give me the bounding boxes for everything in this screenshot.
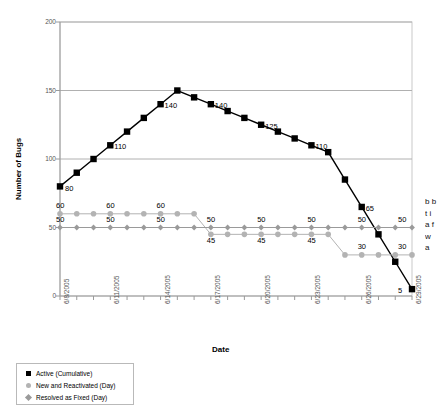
data-point-label: 60 bbox=[157, 201, 165, 210]
data-point-label: 65 bbox=[366, 204, 374, 213]
data-point-label: 125 bbox=[265, 122, 278, 131]
data-point-label: 45 bbox=[257, 236, 265, 245]
data-point-label: 140 bbox=[215, 101, 228, 110]
data-point-label: 110 bbox=[114, 142, 126, 151]
diamond-marker-icon bbox=[22, 395, 34, 400]
legend-item-resolved-fixed: Resolved as Fixed (Day) bbox=[22, 392, 129, 403]
data-point-label: 50 bbox=[157, 215, 165, 224]
data-point-label: 50 bbox=[257, 215, 265, 224]
data-point-label: 50 bbox=[56, 215, 64, 224]
y-tick-label: 100 bbox=[34, 155, 56, 162]
data-point-label: 30 bbox=[398, 242, 406, 251]
data-point-label: 50 bbox=[398, 215, 406, 224]
data-point-label: 45 bbox=[307, 236, 315, 245]
x-axis-title: Date bbox=[212, 345, 229, 354]
data-point-label: 50 bbox=[106, 215, 114, 224]
x-tick-label: 6/29/2005 bbox=[415, 275, 422, 304]
chart-legend: Active (Cumulative) New and Reactivated … bbox=[16, 363, 134, 405]
x-tick-label: 6/17/2005 bbox=[214, 275, 221, 304]
square-marker-icon bbox=[22, 371, 34, 376]
data-point-label: 60 bbox=[56, 201, 64, 210]
y-axis-title: Number of Bugs bbox=[14, 138, 23, 200]
data-point-label: 30 bbox=[358, 242, 366, 251]
cropped-side-text: b b t i a f w a bbox=[425, 196, 437, 254]
x-tick-label: 6/11/2005 bbox=[113, 276, 120, 304]
data-point-label: 50 bbox=[207, 215, 215, 224]
legend-label: Resolved as Fixed (Day) bbox=[36, 394, 107, 401]
data-point-label: 50 bbox=[358, 215, 366, 224]
legend-item-new-reactivated: New and Reactivated (Day) bbox=[22, 380, 129, 391]
x-tick-label: 6/8/2005 bbox=[63, 279, 70, 304]
data-point-label: 5 bbox=[398, 286, 402, 295]
bug-trend-chart: Number of Bugs Date 0501001502006/8/2005… bbox=[0, 0, 437, 418]
x-tick-label: 6/23/2005 bbox=[314, 275, 321, 304]
data-point-label: 60 bbox=[106, 201, 114, 210]
y-tick-label: 150 bbox=[34, 87, 56, 94]
legend-item-active: Active (Cumulative) bbox=[22, 368, 129, 379]
data-point-label: 50 bbox=[307, 215, 315, 224]
x-tick-label: 6/14/2005 bbox=[164, 275, 171, 304]
data-point-label: 140 bbox=[165, 101, 178, 110]
data-point-label: 45 bbox=[207, 236, 215, 245]
y-tick-label: 0 bbox=[34, 292, 56, 299]
y-tick-label: 200 bbox=[34, 18, 56, 25]
x-tick-label: 6/26/2005 bbox=[365, 275, 372, 304]
circle-marker-icon bbox=[22, 383, 34, 388]
data-point-label: 80 bbox=[65, 184, 73, 193]
x-tick-label: 6/20/2005 bbox=[264, 275, 271, 304]
data-point-label: 110 bbox=[315, 142, 327, 151]
legend-label: New and Reactivated (Day) bbox=[36, 382, 115, 389]
y-tick-label: 50 bbox=[34, 224, 56, 231]
legend-label: Active (Cumulative) bbox=[36, 370, 92, 377]
